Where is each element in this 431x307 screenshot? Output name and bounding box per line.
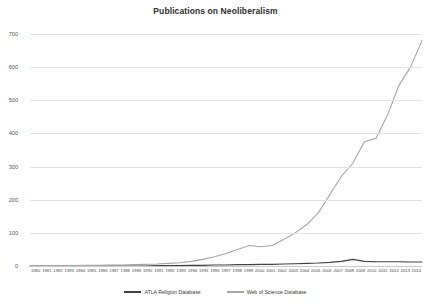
y-axis-tick-label: 200 — [0, 197, 18, 203]
x-axis-tick-label: 2004 — [299, 267, 310, 279]
x-axis-tick-label: 1991 — [153, 267, 164, 279]
x-axis-tick-label: 2002 — [276, 267, 287, 279]
legend-entry[interactable]: Web of Science Database — [227, 289, 307, 295]
legend-swatch-icon — [124, 291, 141, 292]
x-axis-tick-label: 1990 — [142, 267, 153, 279]
y-axis-tick-label: 300 — [0, 164, 18, 170]
x-axis-tick-label: 1993 — [176, 267, 187, 279]
x-axis-tick-label: 2014 — [411, 267, 422, 279]
legend-label: Web of Science Database — [247, 289, 307, 295]
x-axis-tick-label: 2008 — [344, 267, 355, 279]
x-axis-tick-label: 1982 — [52, 267, 63, 279]
x-axis-tick-label: 2013 — [400, 267, 411, 279]
x-axis-tick-label: 1989 — [131, 267, 142, 279]
y-axis-tick-label: 700 — [0, 31, 18, 37]
gridline — [30, 133, 422, 134]
x-axis-tick-label: 1983 — [64, 267, 75, 279]
x-axis: 1980198119821983198419851986198719881989… — [30, 267, 422, 279]
x-axis-tick-label: 2001 — [265, 267, 276, 279]
x-axis-tick-label: 1981 — [41, 267, 52, 279]
gridline — [30, 167, 422, 168]
chart-legend: ATLA Religion DatabaseWeb of Science Dat… — [0, 289, 431, 295]
chart-container: Publications on Neoliberalism 0100200300… — [0, 0, 431, 307]
x-axis-tick-label: 2003 — [288, 267, 299, 279]
y-axis-tick-label: 500 — [0, 97, 18, 103]
x-axis-tick-label: 1994 — [187, 267, 198, 279]
x-axis-tick-label: 1995 — [198, 267, 209, 279]
x-axis-tick-label: 2000 — [254, 267, 265, 279]
gridline — [30, 34, 422, 35]
y-axis-tick-label: 400 — [0, 130, 18, 136]
gridline — [30, 100, 422, 101]
x-axis-tick-label: 1999 — [243, 267, 254, 279]
x-axis-tick-label: 1984 — [75, 267, 86, 279]
y-axis-tick-label: 100 — [0, 230, 18, 236]
x-axis-tick-label: 1985 — [86, 267, 97, 279]
x-axis-tick-label: 2012 — [389, 267, 400, 279]
gridline — [30, 233, 422, 234]
y-axis-tick-label: 0 — [0, 263, 18, 269]
x-axis-tick-label: 1987 — [108, 267, 119, 279]
legend-label: ATLA Religion Database — [144, 289, 200, 295]
x-axis-tick-label: 2011 — [377, 267, 388, 279]
x-axis-tick-label: 1986 — [97, 267, 108, 279]
x-axis-tick-label: 1996 — [209, 267, 220, 279]
x-axis-tick-label: 1980 — [30, 267, 41, 279]
y-axis-tick-label: 600 — [0, 64, 18, 70]
legend-swatch-icon — [227, 291, 244, 292]
gridline — [30, 200, 422, 201]
x-axis-tick-label: 2005 — [310, 267, 321, 279]
x-axis-tick-label: 2010 — [366, 267, 377, 279]
y-axis: 0100200300400500600700 — [30, 34, 422, 266]
legend-entry[interactable]: ATLA Religion Database — [124, 289, 200, 295]
gridline — [30, 67, 422, 68]
chart-title: Publications on Neoliberalism — [0, 6, 431, 16]
x-axis-tick-label: 2006 — [321, 267, 332, 279]
x-axis-tick-label: 1988 — [120, 267, 131, 279]
x-axis-tick-label: 2009 — [355, 267, 366, 279]
x-axis-tick-label: 1997 — [220, 267, 231, 279]
x-axis-tick-label: 1992 — [164, 267, 175, 279]
x-axis-tick-label: 2007 — [332, 267, 343, 279]
x-axis-tick-label: 1998 — [232, 267, 243, 279]
